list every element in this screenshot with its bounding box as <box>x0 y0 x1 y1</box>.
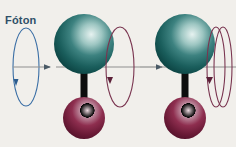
top-atom-before <box>54 14 114 74</box>
bottom-atom-before <box>63 97 105 139</box>
photon-label: Fóton <box>5 14 37 26</box>
molecule-before <box>54 14 114 139</box>
photon-group <box>13 28 50 106</box>
bottom-atom-after <box>164 97 206 139</box>
spin-arrowhead-before <box>107 77 113 84</box>
figure-canvas: Fóton <box>0 0 236 147</box>
molecule-after <box>155 14 215 139</box>
top-atom-after <box>155 14 215 74</box>
